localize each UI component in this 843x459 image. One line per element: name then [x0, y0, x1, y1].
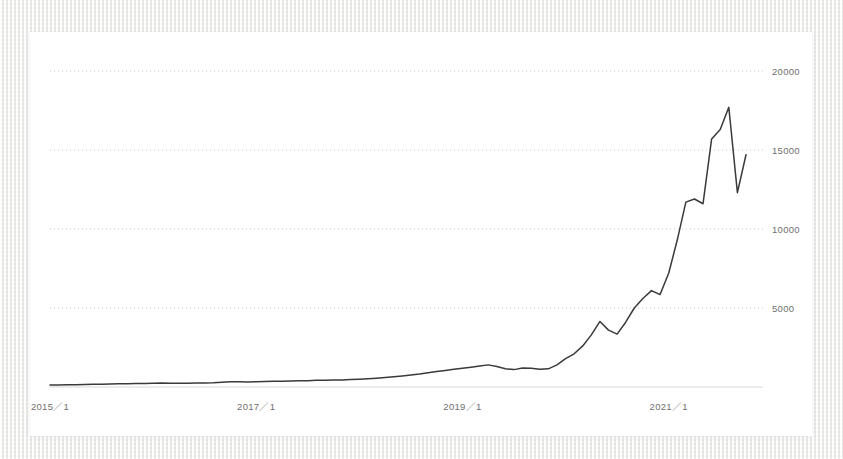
x-tick-label: 2015／1 — [31, 401, 69, 412]
x-tick-label: 2017／1 — [237, 401, 275, 412]
data-series-group — [50, 107, 746, 385]
x-tick-label: 2019／1 — [443, 401, 481, 412]
y-tick-label: 10000 — [772, 224, 800, 235]
y-tick-label: 20000 — [772, 66, 800, 77]
y-tick-label: 15000 — [772, 145, 800, 156]
chart-card: 5000100001500020000 2015／12017／12019／120… — [30, 32, 812, 436]
line-chart-plot-area: 5000100001500020000 2015／12017／12019／120… — [30, 32, 812, 436]
gridlines-group — [50, 71, 763, 308]
y-tick-label: 5000 — [772, 303, 794, 314]
line-chart-svg: 5000100001500020000 2015／12017／12019／120… — [30, 32, 812, 436]
series-line-value — [50, 107, 746, 385]
y-axis-tick-labels: 5000100001500020000 — [772, 66, 800, 314]
x-tick-label: 2021／1 — [650, 401, 688, 412]
x-axis-tick-labels: 2015／12017／12019／12021／1 — [31, 401, 688, 412]
